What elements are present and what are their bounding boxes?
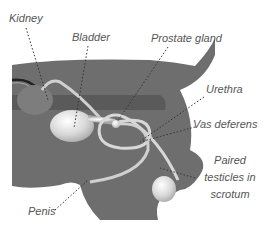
label-testicles: Paired testicles in scrotum (195, 154, 265, 201)
label-urethra: Urethra (206, 83, 243, 96)
label-kidney: Kidney (9, 12, 43, 25)
label-vas-deferens: Vas deferens (193, 118, 257, 131)
label-testicles-line2: testicles in (195, 171, 265, 184)
label-testicles-line3: scrotum (195, 188, 265, 201)
label-penis: Penis (28, 205, 56, 218)
label-testicles-line1: Paired (195, 154, 265, 167)
kidney (17, 85, 53, 115)
testicle (152, 176, 176, 202)
label-bladder: Bladder (72, 31, 110, 44)
body-silhouette (12, 38, 215, 220)
bladder (50, 110, 94, 142)
label-prostate-gland: Prostate gland (151, 32, 222, 45)
